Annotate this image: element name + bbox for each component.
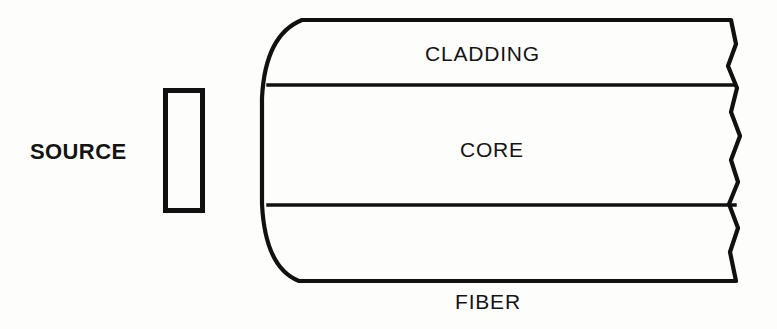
fiber-diagram: SOURCE CLADDING CORE FIBER <box>0 0 777 329</box>
source-label: SOURCE <box>30 139 127 165</box>
source-block <box>166 91 203 211</box>
core-label: CORE <box>460 138 524 162</box>
fiber-label: FIBER <box>455 290 521 314</box>
cladding-label: CLADDING <box>425 42 540 66</box>
